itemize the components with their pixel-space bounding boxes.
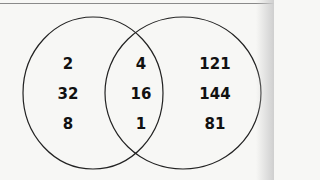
- page-shadow: [256, 0, 274, 180]
- left-value-1: 2: [48, 55, 88, 73]
- intersection-value-3: 1: [121, 115, 161, 133]
- intersection-value-2: 16: [121, 85, 161, 103]
- intersection-value-1: 4: [121, 55, 161, 73]
- left-value-2: 32: [48, 85, 88, 103]
- right-value-1: 121: [195, 55, 235, 73]
- right-value-3: 81: [195, 115, 235, 133]
- right-value-2: 144: [195, 85, 235, 103]
- left-value-3: 8: [48, 115, 88, 133]
